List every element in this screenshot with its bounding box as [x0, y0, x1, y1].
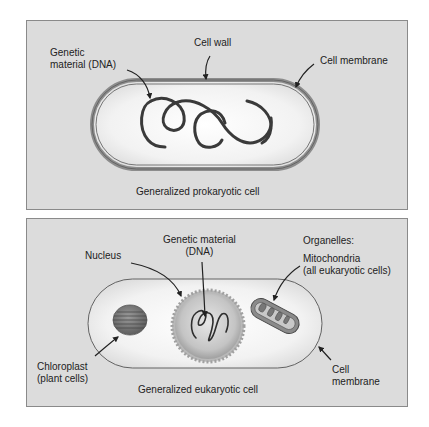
- label-euk-organelles: Organelles:: [303, 235, 354, 247]
- label-pro-cell-membrane: Cell membrane: [320, 55, 388, 67]
- label-euk-mitochondria-line2: (all eukaryotic cells): [303, 265, 391, 277]
- caption-eukaryotic: Generalized eukaryotic cell: [138, 384, 258, 396]
- caption-prokaryotic: Generalized prokaryotic cell: [136, 186, 259, 198]
- label-pro-genetic-material-line2: material (DNA): [50, 59, 116, 71]
- label-pro-genetic-material-line1: Genetic: [50, 47, 116, 59]
- prokaryotic-cell: [92, 80, 318, 169]
- arrow-pro-cell-wall: [206, 56, 210, 79]
- label-euk-cell-membrane: Cell membrane: [332, 364, 380, 387]
- label-euk-cell-membrane-line2: membrane: [332, 376, 380, 388]
- label-euk-nucleus: Nucleus: [85, 250, 121, 262]
- label-pro-genetic-material: Genetic material (DNA): [50, 47, 116, 70]
- chloroplast: [113, 305, 147, 335]
- label-euk-chloroplast: Chloroplast (plant cells): [37, 361, 88, 384]
- label-euk-mitochondria-line1: Mitochondria: [303, 253, 391, 265]
- arrow-pro-cell-membrane: [296, 64, 314, 87]
- label-euk-mitochondria: Mitochondria (all eukaryotic cells): [303, 253, 391, 276]
- label-euk-cell-membrane-line1: Cell: [332, 364, 380, 376]
- nucleus: [172, 290, 244, 362]
- label-euk-genetic-material: Genetic material (DNA): [163, 234, 236, 257]
- arrow-euk-cell-membrane: [319, 347, 331, 360]
- label-euk-genetic-material-line1: Genetic material: [163, 234, 236, 246]
- label-euk-chloroplast-line1: Chloroplast: [37, 361, 88, 373]
- label-euk-genetic-material-line2: (DNA): [163, 246, 236, 258]
- label-euk-chloroplast-line2: (plant cells): [37, 373, 88, 385]
- label-pro-cell-wall: Cell wall: [194, 37, 231, 49]
